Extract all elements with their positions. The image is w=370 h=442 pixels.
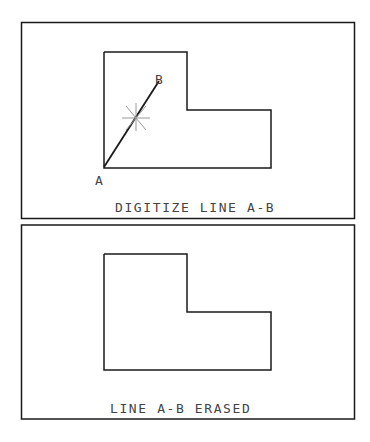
top-caption: DIGITIZE LINE A-B xyxy=(115,200,275,215)
diagram-canvas: B A DIGITIZE LINE A-B LINE A-B ERASED xyxy=(0,0,370,442)
bottom-panel: LINE A-B ERASED xyxy=(104,254,271,416)
top-panel: B A DIGITIZE LINE A-B xyxy=(95,52,275,215)
top-panel-frame xyxy=(22,23,355,219)
point-a-label: A xyxy=(95,173,103,188)
point-b-label: B xyxy=(155,72,163,87)
crosshair-star-icon xyxy=(122,103,150,131)
bottom-panel-frame xyxy=(22,225,355,419)
bottom-caption: LINE A-B ERASED xyxy=(110,401,251,416)
l-shape-outline-erased xyxy=(104,254,271,370)
